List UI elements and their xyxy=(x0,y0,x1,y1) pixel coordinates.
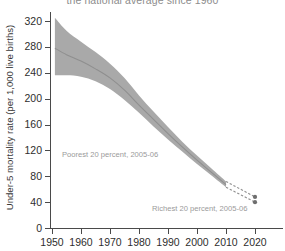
endpoint-connector xyxy=(226,187,255,202)
uncertainty-band xyxy=(55,18,226,187)
annotation-richest-quintile: Richest 20 percent, 2005-06 xyxy=(152,204,247,213)
chart-figure: the national average since 1960 Under-5 … xyxy=(0,0,285,251)
endpoint-markers xyxy=(226,181,257,204)
endpoint-dot xyxy=(253,200,257,204)
plot-area xyxy=(0,0,285,251)
annotation-poorest-quintile: Poorest 20 percent, 2005-06 xyxy=(62,150,158,159)
endpoint-dot xyxy=(253,195,257,199)
